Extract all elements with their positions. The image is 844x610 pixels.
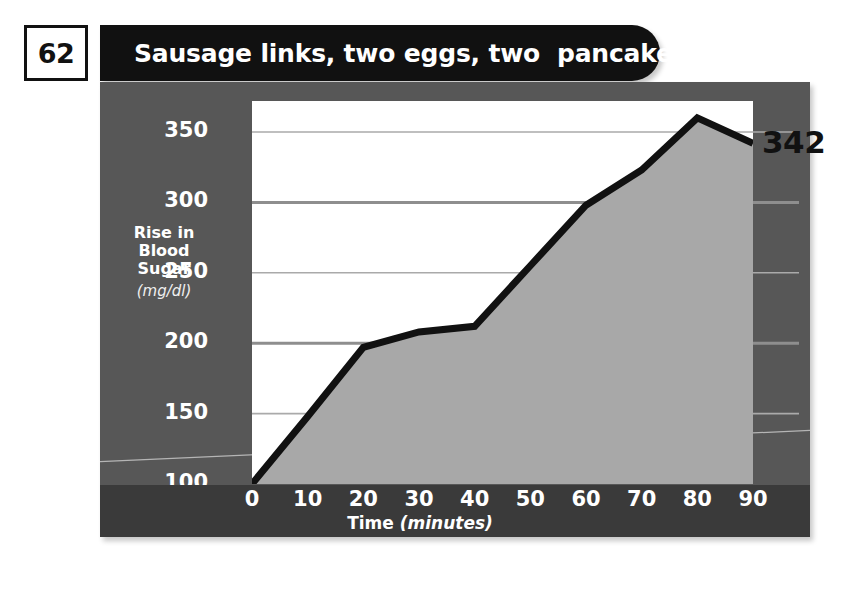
title-bar: Sausage links, two eggs, two pancakes [100,25,660,81]
x-tick-label: 60 [564,487,608,511]
y-tick-label: 350 [132,118,208,142]
x-tick-label: 10 [286,487,330,511]
x-tick-label: 40 [453,487,497,511]
y-tick-label: 200 [132,329,208,353]
x-axis-units: (minutes) [400,513,493,533]
x-tick-label: 0 [230,487,274,511]
y-axis-units: (mg/dl) [118,282,210,300]
x-axis-title: Time (minutes) [100,513,740,533]
x-tick-label: 80 [675,487,719,511]
x-axis-title-text: Time [347,513,394,533]
x-tick-label: 50 [508,487,552,511]
x-tick-label: 30 [397,487,441,511]
figure-number: 62 [38,38,75,69]
plot-svg [252,101,753,484]
y-tick-label: 250 [132,259,208,283]
end-value-annotation: 342 [762,124,825,160]
x-tick-label: 20 [341,487,385,511]
x-axis-band: 0102030405060708090 Time (minutes) [100,485,810,537]
x-tick-label: 90 [731,487,775,511]
plot-area [252,101,753,484]
figure-number-box: 62 [24,25,88,81]
chart-panel: Rise in Blood Sugar (mg/dl) 100150200250… [100,82,810,537]
chart-title: Sausage links, two eggs, two pancakes [134,39,687,68]
chart-figure: 62 Sausage links, two eggs, two pancakes… [0,0,844,610]
x-tick-label: 70 [620,487,664,511]
y-tick-label: 150 [132,400,208,424]
y-tick-label: 300 [132,188,208,212]
